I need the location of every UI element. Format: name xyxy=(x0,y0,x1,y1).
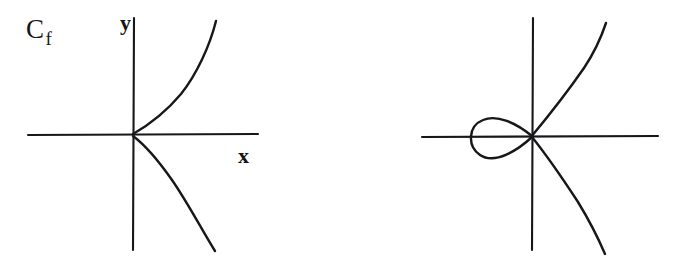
cg-upper-branch xyxy=(531,23,606,137)
panel-cf: Cf y x xyxy=(0,0,338,275)
curve-label-cf: Cf xyxy=(26,16,51,43)
cg-x-axis xyxy=(422,136,658,137)
curve-label-cf-base: C xyxy=(26,14,45,44)
cg-loop xyxy=(471,118,532,158)
cg-plot xyxy=(338,0,676,275)
cf-x-axis xyxy=(28,134,258,135)
curve-label-cf-subscript: f xyxy=(46,28,53,49)
cf-upper-branch xyxy=(133,21,216,134)
cf-lower-branch xyxy=(133,136,215,251)
cf-x-axis-label: x xyxy=(238,145,249,167)
cf-y-axis-label: y xyxy=(120,12,131,34)
cg-lower-branch xyxy=(532,137,605,254)
panel-cg: Cg y x xyxy=(338,0,676,275)
figure-root: Cf y x Cg y x xyxy=(0,0,676,275)
